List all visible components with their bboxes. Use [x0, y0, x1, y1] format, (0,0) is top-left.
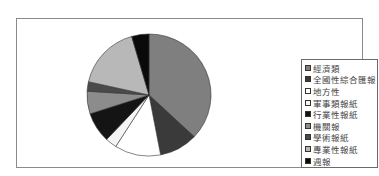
legend-item-academic: 學術報紙	[305, 132, 375, 144]
legend-item-military: 軍事類報紙	[305, 97, 375, 109]
legend-swatch-icon	[305, 111, 311, 117]
legend-label: 機關報	[313, 120, 340, 132]
legend-item-weekly: 週報	[305, 155, 375, 167]
legend-item-national: 全國性綜合匯報	[305, 74, 375, 86]
chart-frame: 經濟類 全國性綜合匯報 地方性 軍事類報紙 行業性報紙 機關報 學術報紙 專業性…	[16, 18, 363, 168]
chart-legend: 經濟類 全國性綜合匯報 地方性 軍事類報紙 行業性報紙 機關報 學術報紙 專業性…	[301, 59, 378, 168]
legend-label: 經濟類	[313, 62, 340, 74]
legend-swatch-icon	[305, 76, 311, 82]
legend-label: 學術報紙	[313, 131, 349, 143]
legend-label: 行業性報紙	[313, 108, 358, 120]
legend-swatch-icon	[305, 134, 311, 140]
legend-swatch-icon	[305, 88, 311, 94]
legend-swatch-icon	[305, 146, 311, 152]
legend-label: 地方性	[313, 85, 340, 97]
legend-swatch-icon	[305, 123, 311, 129]
legend-item-professional: 專業性報紙	[305, 143, 375, 155]
legend-swatch-icon	[305, 158, 311, 164]
legend-label: 專業性報紙	[313, 143, 358, 155]
legend-swatch-icon	[305, 65, 311, 71]
legend-label: 全國性綜合匯報	[313, 73, 376, 85]
legend-item-industry: 行業性報紙	[305, 108, 375, 120]
legend-label: 軍事類報紙	[313, 97, 358, 109]
legend-item-local: 地方性	[305, 85, 375, 97]
legend-item-economy: 經濟類	[305, 62, 375, 74]
legend-label: 週報	[313, 155, 331, 167]
legend-item-official: 機關報	[305, 120, 375, 132]
legend-swatch-icon	[305, 100, 311, 106]
